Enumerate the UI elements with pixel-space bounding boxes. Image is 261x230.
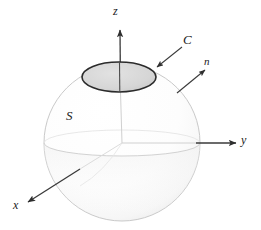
surface-label-s: S xyxy=(66,109,73,122)
leader-line-C xyxy=(157,47,182,67)
cap-ellipse-C xyxy=(82,62,156,92)
axis-label-z: z xyxy=(113,5,118,17)
normal-label-n: n xyxy=(204,56,210,67)
axis-label-x: x xyxy=(13,199,18,211)
axis-label-y: y xyxy=(241,134,246,146)
normal-vector-arrow-n xyxy=(177,70,205,93)
geometry-diagram-svg xyxy=(0,0,261,230)
curve-label-c: C xyxy=(183,33,192,46)
figure-container: z y x C n S xyxy=(0,0,261,230)
